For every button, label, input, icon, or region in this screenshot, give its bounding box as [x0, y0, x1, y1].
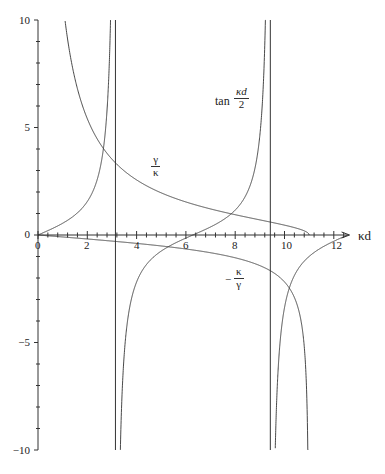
x-tick-label: 12: [331, 240, 342, 251]
tan-label-num: κd: [234, 86, 249, 99]
kg-den: γ: [234, 279, 243, 291]
neg-kappa-over-gamma-curve: [38, 235, 308, 450]
x-tick-label: 6: [183, 240, 189, 251]
y-tick-label: 10: [6, 15, 30, 26]
tan-curve: [38, 20, 111, 235]
y-tick-label: −10: [6, 445, 30, 456]
x-axis-label: κd: [358, 229, 371, 242]
kg-sign: −: [225, 274, 231, 285]
y-tick-label: 0: [6, 229, 30, 240]
gk-num: γ: [151, 154, 160, 167]
tan-label-fraction: κd 2: [234, 86, 249, 110]
x-tick-label: 4: [134, 240, 140, 251]
kg-num: κ: [234, 266, 244, 279]
x-tick-label: 2: [84, 240, 90, 251]
gk-den: κ: [151, 167, 161, 179]
gamma-over-kappa-curve: [65, 21, 309, 235]
neg-kappa-over-gamma-label: κ γ: [234, 266, 244, 290]
x-tick-label: 10: [281, 240, 292, 251]
tan-label-den: 2: [237, 99, 247, 111]
plot-area: [0, 0, 385, 474]
gamma-over-kappa-label: γ κ: [151, 154, 161, 178]
tan-curve: [275, 235, 347, 448]
tan-label-prefix: tan: [215, 95, 230, 107]
x-tick-label: 8: [232, 240, 238, 251]
y-tick-label: 5: [6, 122, 30, 133]
y-tick-label: −5: [6, 337, 30, 348]
x-tick-label: 0: [35, 240, 41, 251]
